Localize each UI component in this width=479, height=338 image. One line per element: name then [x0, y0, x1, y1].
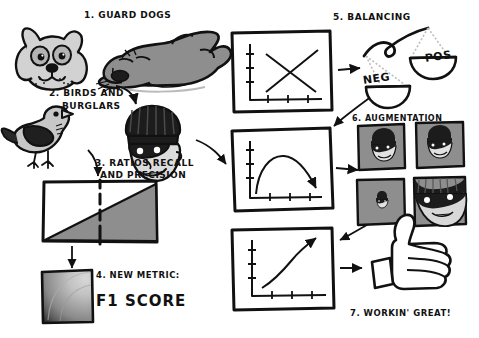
- metric-name: F1 SCORE: [96, 292, 186, 310]
- label-step-3-line2: AND PRECISION: [100, 170, 186, 180]
- arrow-chart2-to-aug: [336, 168, 358, 170]
- label-step-1: 1. GUARD DOGS: [84, 10, 171, 20]
- dog-icon: [16, 28, 87, 89]
- workflow-diagram: [0, 0, 479, 338]
- chart-precision-recall: [232, 31, 332, 112]
- chart-f1-peak: [232, 128, 333, 211]
- label-step-7: 7. WORKIN' GREAT!: [350, 308, 451, 318]
- augmentation-tile: [358, 124, 405, 170]
- label-step-4: 4. NEW METRIC:: [96, 270, 180, 280]
- arrow-burglar-to-chart2: [196, 140, 226, 164]
- augmentation-tile: [414, 177, 466, 226]
- label-step-2-line2: BURGLARS: [62, 101, 121, 111]
- sleeping-dog-icon: [96, 32, 231, 92]
- label-step-6: 6. AUGMENTATION: [352, 114, 442, 123]
- arrow-chart1-to-balance: [338, 68, 360, 70]
- balance-scale-icon: [364, 28, 456, 108]
- label-step-5: 5. BALANCING: [333, 12, 411, 22]
- augmentation-tile: [416, 122, 464, 168]
- ratio-box-icon: [43, 180, 157, 244]
- augmentation-tile: [357, 179, 405, 225]
- augmentation-grid-icon: [357, 122, 466, 226]
- chart-improving: [232, 228, 334, 310]
- label-step-2-line1: 2. BIRDS AND: [49, 88, 124, 98]
- bird-icon: [2, 107, 73, 168]
- label-step-3-line1: 3. RATIOS RECALL: [95, 158, 194, 168]
- gradient-square-icon: [42, 270, 93, 323]
